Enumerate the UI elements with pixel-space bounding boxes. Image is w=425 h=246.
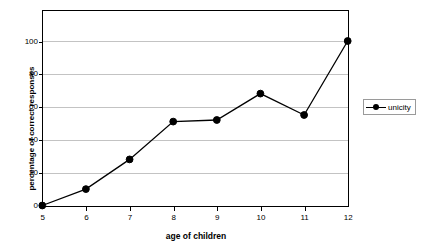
x-axis-title: age of children xyxy=(42,231,350,241)
x-axis-tick-label: 9 xyxy=(207,214,227,222)
x-axis-tick-label: 6 xyxy=(76,214,96,222)
data-point-marker xyxy=(83,186,90,193)
x-axis-tick-label: 12 xyxy=(338,214,358,222)
data-point-marker xyxy=(344,38,351,45)
plot-area xyxy=(42,10,349,207)
x-axis-tick-mark xyxy=(217,207,218,211)
line-chart: percentage of correct responses 02040608… xyxy=(0,0,425,246)
legend-line-marker-icon xyxy=(366,103,386,111)
y-axis-title: percentage of correct responses xyxy=(27,34,36,224)
x-axis-tick-mark xyxy=(174,207,175,211)
data-point-marker xyxy=(126,156,133,163)
series-line xyxy=(42,41,347,206)
y-axis-tick-label: 100 xyxy=(12,38,38,46)
plot-inner xyxy=(43,11,348,206)
y-axis-tick-label: 20 xyxy=(12,169,38,177)
data-point-marker xyxy=(301,112,308,119)
x-axis-tick-mark xyxy=(261,207,262,211)
y-axis-tick-label: 60 xyxy=(12,103,38,111)
y-axis-tick-label: 80 xyxy=(12,70,38,78)
y-axis-tick-label: 40 xyxy=(12,136,38,144)
series-unicity xyxy=(43,11,347,205)
y-axis-tick-label: 0 xyxy=(12,202,38,210)
x-axis-tick-label: 5 xyxy=(33,214,53,222)
x-axis-tick-mark xyxy=(305,207,306,211)
x-axis-tick-label: 10 xyxy=(251,214,271,222)
x-axis-tick-mark xyxy=(86,207,87,211)
data-point-marker xyxy=(170,118,177,125)
x-axis-tick-mark xyxy=(130,207,131,211)
data-point-marker xyxy=(213,117,220,124)
x-axis-tick-label: 11 xyxy=(295,214,315,222)
legend: unicity xyxy=(363,99,416,115)
data-point-marker xyxy=(39,202,46,209)
data-point-marker xyxy=(257,90,264,97)
x-axis-tick-label: 7 xyxy=(120,214,140,222)
legend-item-label: unicity xyxy=(388,103,411,112)
x-axis-tick-label: 8 xyxy=(164,214,184,222)
